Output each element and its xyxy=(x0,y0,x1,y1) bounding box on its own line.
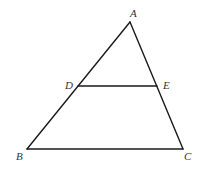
label-b: B xyxy=(16,150,23,162)
label-e: E xyxy=(162,79,170,91)
label-c: C xyxy=(184,150,192,162)
label-d: D xyxy=(64,79,73,91)
label-a: A xyxy=(129,7,137,19)
triangle-diagram: A D E B C xyxy=(0,0,208,181)
